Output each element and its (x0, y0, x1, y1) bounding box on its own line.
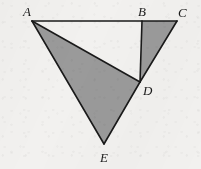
shaded-triangle-ade (32, 21, 140, 144)
vertex-label-e: E (100, 151, 108, 164)
figure-canvas (0, 0, 201, 169)
vertex-label-d: D (143, 84, 152, 97)
geometry-figure: A B C D E (0, 0, 201, 169)
vertex-label-a: A (23, 5, 31, 18)
vertex-label-b: B (138, 5, 146, 18)
vertex-label-c: C (178, 6, 187, 19)
